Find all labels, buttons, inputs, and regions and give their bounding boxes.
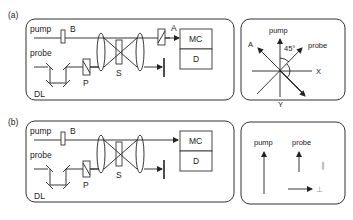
pump-polarization-label: pump [269, 26, 288, 35]
analyzer-direction-label: A [248, 40, 253, 49]
sample-label: S [116, 170, 122, 180]
lens-1 [97, 33, 105, 71]
x-axis-label: X [316, 67, 321, 76]
analyzer-direction-arrow [258, 48, 305, 95]
detector-label: D [193, 156, 199, 166]
polarizer-label: P [83, 180, 89, 190]
y-axis-label: Y [278, 100, 283, 109]
diagram-canvas: (a) pump B probe DL P [0, 0, 353, 220]
parallel-symbol: ∥ [321, 161, 325, 170]
analyzer-label: A [171, 23, 177, 33]
panel-a-setup: pump B probe DL P S [26, 19, 234, 100]
pump-label: pump [30, 24, 52, 34]
panel-b-polarization: pump probe ∥ ⊥ [241, 122, 345, 204]
beam-block-label: B [70, 126, 76, 136]
lens-2 [136, 135, 144, 173]
perpendicular-symbol: ⊥ [316, 185, 323, 194]
delay-line-label: DL [34, 191, 45, 201]
polarizer-label: P [83, 78, 89, 88]
pump-polarization-label: pump [254, 138, 273, 147]
lens-1 [97, 135, 105, 173]
monochromator-label: MC [189, 34, 202, 44]
panel-a-polarization-frame [241, 19, 345, 100]
probe-label: probe [30, 48, 52, 58]
panel-b-label: (b) [8, 117, 19, 127]
sample-label: S [116, 68, 122, 78]
beam-block-B [61, 30, 65, 43]
pump-label: pump [30, 126, 52, 136]
probe-polarization-label: probe [292, 138, 311, 147]
angle-label: 45° [284, 44, 295, 53]
monochromator-label: MC [189, 136, 202, 146]
lens-2 [136, 33, 144, 71]
probe-label: probe [30, 150, 52, 160]
detector-label: D [193, 54, 199, 64]
probe-polarization-label: probe [308, 41, 327, 50]
panel-b-polarization-frame [241, 122, 345, 204]
beam-block-B [61, 132, 65, 145]
delay-line-label: DL [34, 89, 45, 99]
angle-arc-45 [280, 58, 289, 62]
panel-a-label: (a) [8, 10, 19, 20]
panel-b-setup: pump B probe DL P S MC D [26, 121, 234, 202]
panel-a-polarization: X pump Y probe A 45° [241, 19, 345, 109]
beam-block-label: B [70, 24, 76, 34]
